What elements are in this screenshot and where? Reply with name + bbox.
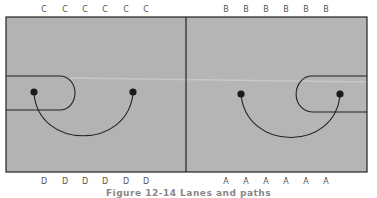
bottom-label-left: D bbox=[60, 177, 70, 186]
bottom-label-left: D bbox=[121, 177, 131, 186]
bottom-label-right: A bbox=[301, 177, 311, 186]
figure-caption: Figure 12-14 Lanes and paths bbox=[0, 188, 377, 198]
bottom-label-right: A bbox=[321, 177, 331, 186]
top-label-right: B bbox=[241, 5, 251, 14]
top-label-left: C bbox=[39, 5, 49, 14]
bottom-label-left: D bbox=[100, 177, 110, 186]
top-label-left: C bbox=[100, 5, 110, 14]
bottom-label-left: D bbox=[80, 177, 90, 186]
bottom-label-right: A bbox=[281, 177, 291, 186]
top-label-right: B bbox=[221, 5, 231, 14]
left-key-dot bbox=[30, 88, 37, 95]
bottom-label-right: A bbox=[241, 177, 251, 186]
right-key-dot bbox=[336, 90, 343, 97]
court-diagram bbox=[0, 0, 377, 198]
bottom-label-left: D bbox=[141, 177, 151, 186]
top-label-left: C bbox=[60, 5, 70, 14]
top-label-left: C bbox=[121, 5, 131, 14]
bottom-label-right: A bbox=[261, 177, 271, 186]
left-center-dot bbox=[129, 88, 136, 95]
right-center-dot bbox=[237, 90, 244, 97]
top-label-left: C bbox=[80, 5, 90, 14]
top-label-left: C bbox=[141, 5, 151, 14]
top-label-right: B bbox=[301, 5, 311, 14]
bottom-label-left: D bbox=[39, 177, 49, 186]
top-label-right: B bbox=[261, 5, 271, 14]
top-label-right: B bbox=[321, 5, 331, 14]
top-label-right: B bbox=[281, 5, 291, 14]
bottom-label-right: A bbox=[221, 177, 231, 186]
